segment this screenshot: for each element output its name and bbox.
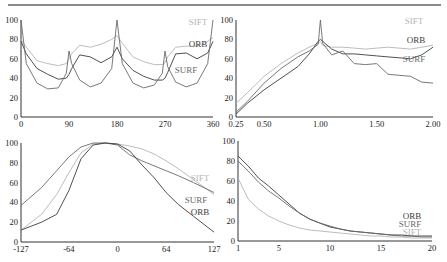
- y-tick-label: 60: [225, 54, 234, 64]
- chart-2: 0204060801000.250.501.001.502.00SIFTORBS…: [220, 15, 440, 129]
- y-tick-label: 60: [10, 178, 19, 188]
- x-tick-label: -64: [63, 244, 75, 254]
- legend-label-orb: ORB: [407, 35, 426, 45]
- y-tick-label: 40: [225, 73, 234, 83]
- x-tick-label: 10: [326, 243, 335, 253]
- axes: [21, 143, 214, 242]
- y-tick-label: 100: [5, 138, 18, 148]
- y-tick-label: 80: [10, 34, 19, 44]
- legend-label-surf: SURF: [175, 65, 198, 75]
- x-tick-label: 180: [111, 119, 124, 129]
- y-tick-label: 20: [10, 93, 19, 103]
- legend-label-sift: SIFT: [403, 227, 422, 237]
- x-tick-label: 0: [115, 244, 119, 254]
- legend-label-orb: ORB: [189, 39, 208, 49]
- x-tick-label: 1.00: [313, 119, 328, 129]
- y-tick-label: 80: [227, 156, 236, 166]
- x-tick-label: 0.25: [229, 119, 244, 129]
- x-tick-label: -127: [13, 244, 29, 254]
- x-tick-label: 0: [19, 119, 23, 129]
- y-tick-label: 40: [10, 197, 19, 207]
- chart-3: 020406080100-127-64064127SIFTSURFORB: [5, 138, 220, 254]
- series-sift: [21, 36, 213, 66]
- legend-label-surf: SURF: [403, 54, 426, 64]
- y-tick-label: 80: [10, 158, 19, 168]
- x-tick-label: 15: [377, 243, 386, 253]
- chart-4: 02040608010015101520ORBSURFSIFT: [222, 136, 436, 253]
- x-tick-label: 0.50: [257, 119, 272, 129]
- legend-label-sift: SIFT: [405, 16, 424, 26]
- y-tick-label: 100: [5, 15, 18, 25]
- x-tick-label: 360: [207, 119, 220, 129]
- y-tick-label: 60: [227, 176, 236, 186]
- axes: [236, 20, 433, 117]
- legend-label-sift: SIFT: [191, 173, 210, 183]
- y-tick-label: 0: [14, 112, 18, 122]
- x-tick-label: 90: [65, 119, 74, 129]
- y-tick-label: 60: [10, 54, 19, 64]
- y-tick-label: 80: [225, 34, 234, 44]
- series-surf: [21, 20, 213, 89]
- legend-label-orb: ORB: [191, 207, 210, 217]
- y-tick-label: 0: [231, 236, 235, 246]
- series-surf: [236, 20, 433, 112]
- x-tick-label: 2.00: [426, 119, 441, 129]
- charts-canvas: 020406080100090180270360SIFTORBSURF02040…: [0, 0, 447, 262]
- y-tick-label: 100: [222, 136, 235, 146]
- x-tick-label: 1.50: [369, 119, 384, 129]
- y-tick-label: 20: [10, 217, 19, 227]
- y-tick-label: 40: [10, 73, 19, 83]
- y-tick-label: 20: [225, 93, 234, 103]
- series-orb: [21, 143, 214, 232]
- series-orb: [236, 39, 433, 114]
- legend-label-sift: SIFT: [189, 17, 208, 27]
- y-tick-label: 40: [227, 196, 236, 206]
- x-tick-label: 270: [159, 119, 172, 129]
- x-tick-label: 127: [208, 244, 221, 254]
- series-sift: [21, 143, 214, 230]
- legend-label-surf: SURF: [185, 195, 208, 205]
- y-tick-label: 20: [227, 216, 236, 226]
- chart-1: 020406080100090180270360SIFTORBSURF: [5, 15, 219, 129]
- y-tick-label: 100: [220, 15, 233, 25]
- x-tick-label: 64: [162, 244, 171, 254]
- x-tick-label: 5: [277, 243, 281, 253]
- x-tick-label: 1: [236, 243, 240, 253]
- x-tick-label: 20: [428, 243, 437, 253]
